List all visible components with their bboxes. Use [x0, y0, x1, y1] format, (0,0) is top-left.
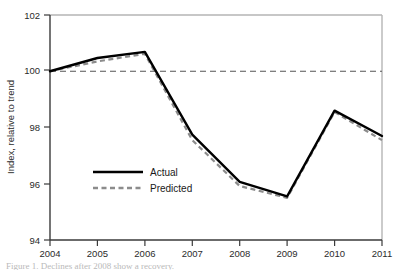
x-tick-label-2011: 2011: [372, 248, 392, 259]
y-tick-label-94: 94: [29, 235, 40, 246]
x-tick-label-2009: 2009: [277, 248, 298, 259]
plot-background: [50, 15, 382, 240]
y-axis-title: Index, relative to trend: [5, 80, 16, 174]
y-axis-ticks: [44, 15, 50, 240]
legend-label-actual: Actual: [150, 167, 178, 178]
y-tick-label-100: 100: [24, 65, 40, 76]
figure-caption: Figure 1. Declines after 2008 show a rec…: [6, 261, 174, 270]
x-axis-ticks: [50, 240, 382, 246]
x-tick-label-2008: 2008: [229, 248, 250, 259]
legend-label-predicted: Predicted: [150, 183, 192, 194]
x-tick-label-2005: 2005: [87, 248, 108, 259]
y-tick-label-98: 98: [29, 122, 40, 133]
x-tick-label-2004: 2004: [39, 248, 60, 259]
figure-container: 102 100 98 96 94 2004 2005 2006 2007 200…: [0, 0, 412, 270]
y-tick-label-96: 96: [29, 179, 40, 190]
x-tick-label-2010: 2010: [324, 248, 345, 259]
x-tick-label-2007: 2007: [182, 248, 203, 259]
line-chart: 102 100 98 96 94 2004 2005 2006 2007 200…: [0, 0, 412, 270]
x-tick-label-2006: 2006: [134, 248, 155, 259]
y-tick-label-102: 102: [24, 10, 40, 21]
